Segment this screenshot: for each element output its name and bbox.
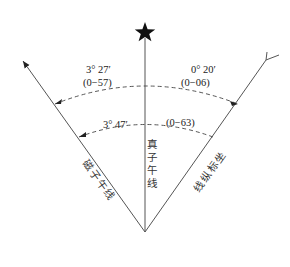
arrow-left-inner-icon	[79, 132, 86, 137]
grid-magnetic-degrees: 3° 47′	[103, 119, 128, 130]
convergence-degrees: 0° 20′	[191, 64, 216, 75]
y-fork-icon	[266, 52, 279, 60]
declination-degrees: 3° 27′	[86, 64, 111, 75]
grid-north-label: 线 纵 标 坐	[191, 150, 227, 195]
north-directions-diagram: 3° 27′ (0−57) 0° 20′ (0−06) 3° 47′ (0−63…	[0, 0, 290, 267]
convergence-mils: (0−06)	[181, 77, 210, 89]
svg-text:线: 线	[147, 177, 158, 189]
grid-north	[145, 52, 279, 232]
magnetic-meridian-label: 磁 子 午 线	[80, 157, 117, 202]
outer-angle-arc	[55, 86, 238, 104]
svg-text:真: 真	[147, 138, 157, 150]
svg-text:子: 子	[147, 151, 157, 163]
svg-text:午: 午	[147, 164, 157, 176]
true-meridian	[135, 22, 155, 232]
declination-mils: (0−57)	[83, 77, 112, 89]
true-meridian-label: 真 子 午 线	[147, 138, 158, 189]
grid-magnetic-mils: (0−63)	[166, 117, 195, 129]
